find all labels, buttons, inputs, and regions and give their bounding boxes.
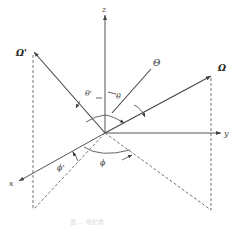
omega-vector bbox=[105, 76, 211, 133]
theta-label: θ bbox=[116, 92, 121, 101]
phi-prime-label: ϕ' bbox=[57, 163, 65, 172]
omega-label: Ω bbox=[217, 63, 226, 73]
theta-prime-arc bbox=[86, 115, 105, 122]
theta-prime-label: θ' bbox=[85, 89, 92, 98]
y-axis-label: y bbox=[223, 129, 229, 138]
omega-prime-projection bbox=[33, 133, 105, 210]
theta-reference-line bbox=[112, 69, 151, 113]
omega-prime-label: Ω' bbox=[15, 48, 27, 58]
figure-caption: 图 ... 散射角 bbox=[70, 218, 104, 226]
x-axis bbox=[19, 133, 105, 181]
phi-arrow bbox=[122, 155, 132, 160]
omega-projection bbox=[105, 133, 211, 210]
big-theta-arc bbox=[134, 105, 145, 117]
big-theta-label: Θ bbox=[153, 58, 161, 68]
x-axis-label: x bbox=[9, 179, 14, 188]
omega-prime-vector bbox=[34, 52, 105, 133]
z-axis-label: z bbox=[101, 5, 107, 14]
theta-tick bbox=[108, 92, 116, 94]
phi-label: ϕ bbox=[100, 158, 106, 167]
theta-arc bbox=[105, 115, 124, 123]
scattering-angle-diagram: z y x Ω Ω' Θ θ θ' ϕ ϕ' 图 ... 散射角 bbox=[0, 0, 231, 226]
